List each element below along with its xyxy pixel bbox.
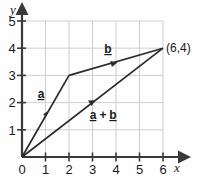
vector-sum-label-plus: + [99,108,106,122]
y-tick-label-2: 2 [8,95,15,110]
vector-addition-diagram: 0 1 2 3 4 5 6 1 2 3 4 5 y x a b a + b [0,0,198,177]
point-label-6-4: (6,4) [166,41,191,55]
x-tick-label-0: 0 [18,162,25,177]
x-tick-label-2: 2 [65,162,72,177]
y-tick-label-4: 4 [8,41,15,56]
vector-sum-label: a + b [90,108,117,122]
vector-a-arrowhead [43,110,49,117]
x-tick-label-4: 4 [112,162,119,177]
axis-tick-labels: 0 1 2 3 4 5 6 1 2 3 4 5 [8,14,166,177]
x-tick-label-5: 5 [136,162,143,177]
vector-b-label: b [104,42,111,56]
y-tick-label-1: 1 [8,123,15,138]
x-tick-label-1: 1 [42,162,49,177]
vector-sum-label-b: b [109,108,116,122]
x-axis-label: x [173,160,180,175]
x-tick-label-3: 3 [89,162,96,177]
y-axis-label: y [8,2,16,17]
vector-a-label: a [38,87,45,101]
x-tick-label-6: 6 [159,162,166,177]
vector-sum-label-a: a [90,108,97,122]
y-tick-label-3: 3 [8,68,15,83]
